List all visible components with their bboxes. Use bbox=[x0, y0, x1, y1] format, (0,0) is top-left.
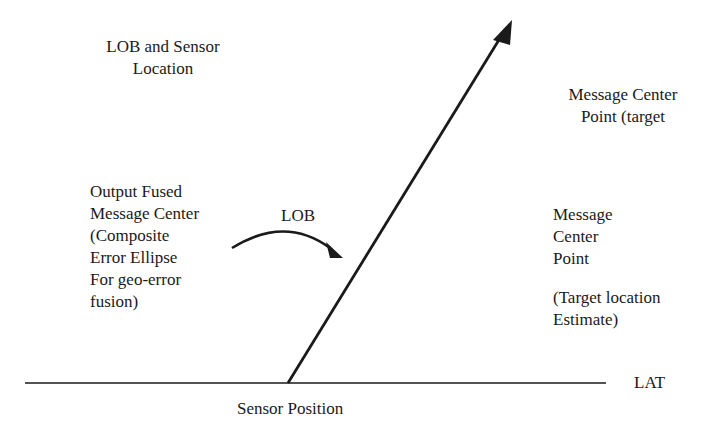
message-center-point-label: Message Center Point bbox=[553, 204, 612, 270]
lob-ray bbox=[288, 30, 505, 383]
target-location-estimate-label: (Target location Estimate) bbox=[553, 287, 661, 331]
lob-and-sensor-location-label: LOB and Sensor Location bbox=[88, 36, 238, 80]
lob-diagram: LOB and Sensor Location Output Fused Mes… bbox=[0, 0, 710, 435]
lob-label: LOB bbox=[281, 205, 315, 227]
curved-pointer-arrowhead-icon bbox=[326, 242, 343, 258]
lob-arrowhead-icon bbox=[493, 20, 512, 45]
sensor-position-label: Sensor Position bbox=[237, 398, 343, 420]
curved-pointer-arrow bbox=[232, 232, 330, 249]
output-fused-message-center-label: Output Fused Message Center (Composite E… bbox=[90, 181, 199, 313]
lat-axis-label: LAT bbox=[634, 372, 665, 394]
message-center-target-label: Message Center Point (target bbox=[548, 84, 698, 128]
